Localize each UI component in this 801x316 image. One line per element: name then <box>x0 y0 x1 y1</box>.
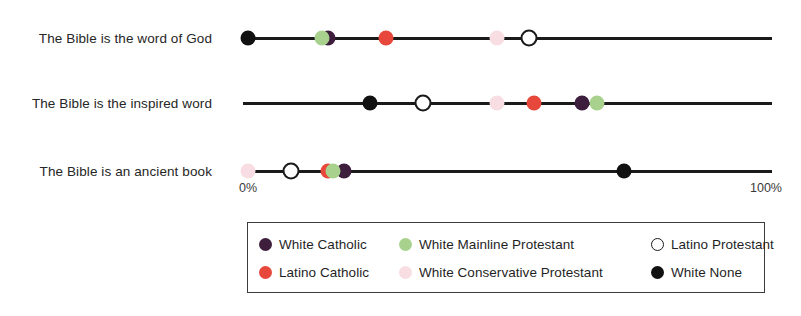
legend-item-latino-protestant: Latino Protestant <box>651 237 774 252</box>
legend-label: White Conservative Protestant <box>419 265 603 280</box>
axis-line <box>243 102 772 105</box>
legend-item-white-none: White None <box>651 265 774 280</box>
data-point <box>362 96 377 111</box>
axis-tick-labels: 0% 100% <box>243 181 772 199</box>
data-point <box>241 31 256 46</box>
legend-item-white-mainline-protestant: White Mainline Protestant <box>399 237 651 252</box>
legend-label: Latino Protestant <box>671 237 774 252</box>
legend-swatch-icon <box>399 238 412 251</box>
legend-swatch-icon <box>259 238 272 251</box>
data-point <box>489 31 504 46</box>
legend-grid: White Catholic White Mainline Protestant… <box>259 231 756 286</box>
dot-plot-chart: The Bible is the word of God The Bible i… <box>0 0 801 316</box>
data-point <box>414 95 431 112</box>
data-point <box>526 96 541 111</box>
row-label: The Bible is the word of God <box>0 31 212 46</box>
legend-label: White Catholic <box>279 237 367 252</box>
data-point <box>590 96 605 111</box>
legend-swatch-icon <box>651 266 664 279</box>
row-label: The Bible is the inspired word <box>0 96 212 111</box>
data-point <box>616 164 631 179</box>
data-point <box>574 96 589 111</box>
legend-item-white-conservative-protestant: White Conservative Protestant <box>399 265 651 280</box>
legend-swatch-icon <box>259 266 272 279</box>
data-point <box>282 163 299 180</box>
legend-label: White None <box>671 265 742 280</box>
data-point <box>325 164 340 179</box>
legend-swatch-icon <box>651 238 664 251</box>
data-point <box>378 31 393 46</box>
axis-tick-max: 100% <box>750 181 782 195</box>
data-point <box>241 164 256 179</box>
row-label: The Bible is an ancient book <box>0 164 212 179</box>
chart-row: The Bible is the word of God <box>0 18 801 58</box>
data-point <box>520 30 537 47</box>
axis-tick-min: 0% <box>239 181 257 195</box>
legend-item-white-catholic: White Catholic <box>259 237 399 252</box>
data-point <box>489 96 504 111</box>
chart-legend: White Catholic White Mainline Protestant… <box>247 222 765 293</box>
chart-row: The Bible is the inspired word <box>0 83 801 123</box>
legend-swatch-icon <box>399 266 412 279</box>
legend-label: Latino Catholic <box>279 265 369 280</box>
data-point <box>315 31 330 46</box>
legend-label: White Mainline Protestant <box>419 237 574 252</box>
legend-item-latino-catholic: Latino Catholic <box>259 265 399 280</box>
